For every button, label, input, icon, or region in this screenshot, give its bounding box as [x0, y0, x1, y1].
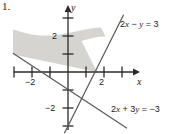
- eq2-equals: =: [139, 104, 149, 114]
- feasible-region: [13, 28, 106, 73]
- y-tick-label-neg2: −2: [45, 104, 55, 113]
- problem-number: 1.: [2, 1, 10, 12]
- y-axis-label: y: [71, 3, 75, 13]
- graph-figure: 1. x y −2 2 2 −2 2x − y = 3 2x + 3y = −3: [0, 0, 177, 134]
- x-tick-label-neg2: −2: [25, 78, 35, 87]
- eq1-rhs: 3: [154, 19, 159, 29]
- x-tick-label-2: 2: [99, 78, 104, 87]
- equation-label-line-2: 2x + 3y = −3: [111, 105, 160, 114]
- x-axis-arrowhead: [133, 69, 140, 76]
- eq1-operator: −: [129, 19, 139, 29]
- eq2-rhs: −3: [150, 104, 160, 114]
- eq2-operator: +: [120, 104, 130, 114]
- equation-label-line-1: 2x − y = 3: [120, 20, 159, 29]
- y-tick-label-2: 2: [52, 32, 57, 41]
- x-axis-label: x: [137, 77, 141, 87]
- eq1-equals: =: [143, 19, 153, 29]
